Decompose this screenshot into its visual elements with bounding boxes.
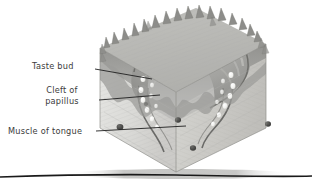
label-muscle-of-tongue-line-1: Muscle of tongue <box>8 126 82 136</box>
label-cleft-of-papilla: Cleft of papillus <box>30 85 94 106</box>
label-taste-bud: Taste bud <box>32 61 74 72</box>
figure-canvas: Taste bud Cleft of papillus Muscle of to… <box>0 0 312 192</box>
label-muscle-of-tongue: Muscle of tongue <box>8 126 82 137</box>
label-cleft-of-papilla-line-1: Cleft of <box>46 85 77 95</box>
muscle-spot <box>144 102 148 106</box>
label-taste-bud-line-1: Taste bud <box>32 61 74 71</box>
label-cleft-of-papilla-line-2: papillus <box>45 96 79 106</box>
muscle-spot <box>190 145 196 151</box>
